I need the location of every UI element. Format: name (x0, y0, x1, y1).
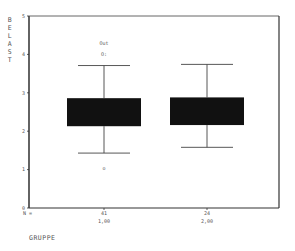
outlier-marker: Out (99, 40, 108, 46)
iqr-box (170, 97, 244, 125)
box-1: OutO:o (67, 40, 141, 171)
iqr-box (67, 98, 141, 126)
y-tick-label: 4 (22, 51, 25, 57)
y-axis-ticks: 012345 (22, 13, 29, 211)
x-tick-label: 2,00 (201, 218, 213, 224)
n-label: N = (23, 210, 32, 216)
y-axis-title-letter: A (8, 40, 12, 48)
outlier-marker: o (102, 165, 105, 171)
x-count-label: 41 (101, 210, 107, 216)
box-2 (170, 64, 244, 147)
y-axis-title-letter: S (8, 48, 12, 56)
y-axis-title-letter: B (8, 16, 12, 24)
y-axis-title-letter: E (8, 24, 12, 32)
y-tick-label: 1 (22, 166, 25, 172)
x-axis-title: GRUPPE (29, 234, 55, 242)
x-axis-ticks: 411,00242,00 (98, 208, 213, 224)
y-tick-label: 3 (22, 90, 25, 96)
boxes: OutO:o (67, 40, 244, 171)
x-tick-label: 1,00 (98, 218, 110, 224)
outlier-marker: O: (101, 51, 107, 57)
y-tick-label: 5 (22, 13, 25, 19)
y-axis-title-letter: L (8, 32, 12, 40)
x-count-label: 24 (204, 210, 210, 216)
y-axis-title-letter: T (8, 56, 12, 64)
y-tick-label: 2 (22, 128, 25, 134)
boxplot-chart: BELAST 012345 OutO:o 411,00242,00 N = GR… (0, 0, 295, 251)
y-axis-title: BELAST (8, 16, 12, 64)
